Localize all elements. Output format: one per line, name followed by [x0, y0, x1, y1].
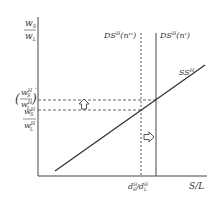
ds-solid-label: DSH(n') [159, 30, 190, 40]
svg-text:': ' [35, 86, 37, 93]
svg-text:wL: wL [25, 31, 37, 42]
ss-label: SSH [179, 67, 195, 77]
ds-dotted-label: DSH(n'') [103, 30, 136, 40]
endowment-ratio-label: dHS/dHL [128, 182, 148, 192]
svg-text:): ) [31, 92, 37, 106]
svg-text:L: L [29, 126, 34, 132]
svg-text:wS: wS [25, 18, 37, 29]
y-axis-label: wS wL [24, 18, 37, 42]
relative-supply-demand-diagram: wS wL ( wH S wH L ) ' wH S wH L DSH(n'')… [0, 0, 219, 204]
svg-text:(: ( [15, 92, 20, 106]
x-axis-label: S/L [189, 181, 204, 191]
svg-text:S: S [27, 92, 31, 98]
ss-curve [55, 65, 205, 171]
right-arrow-icon [144, 132, 154, 142]
svg-text:S: S [30, 111, 34, 117]
lower-wage-ratio-label: wH S wH L [23, 106, 36, 132]
up-arrow-icon [79, 99, 89, 109]
